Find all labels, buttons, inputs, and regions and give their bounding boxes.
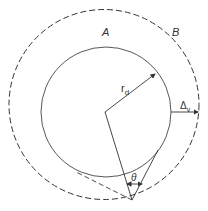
label-region-a: A [101, 26, 109, 38]
label-theta: θ [131, 172, 137, 183]
center-to-vertex-line [105, 112, 132, 200]
label-delta-v: Δv [180, 100, 191, 113]
geometry-diagram: A B rd Δv θ [0, 0, 208, 211]
label-radius: rd [121, 82, 129, 97]
tangent-line-left-dashed [76, 172, 132, 200]
label-region-b: B [172, 26, 179, 38]
radius-line [105, 74, 155, 112]
inner-circle [41, 47, 171, 177]
